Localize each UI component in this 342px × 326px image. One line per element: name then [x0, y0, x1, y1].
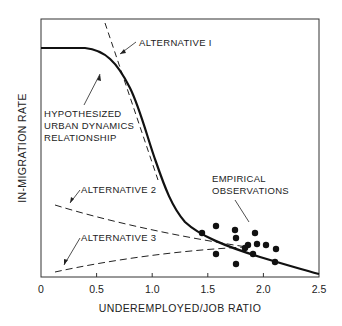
empirical-label-line1: EMPIRICAL: [212, 173, 266, 184]
chart: 0 0.5 1.0 1.5 2.0 2.5 UNDEREMPLOYED/JOB …: [0, 0, 342, 326]
x-axis-title: UNDEREMPLOYED/JOB RATIO: [99, 302, 261, 314]
alternative-3-label: ALTERNATIVE 3: [81, 232, 156, 243]
empirical-points: [199, 223, 279, 267]
y-axis-title: IN-MIGRATION RATE: [16, 93, 28, 203]
x-tick-label: 1.0: [145, 283, 160, 295]
x-tick-label: 1.5: [200, 283, 215, 295]
empirical-label-line2: OBSERVATIONS: [212, 185, 289, 196]
hypothesized-label-line1: HYPOTHESIZED: [44, 108, 122, 119]
x-tick-label: 2.0: [256, 283, 271, 295]
x-tick-marks: [97, 273, 264, 277]
x-tick-label: 0: [38, 283, 44, 295]
hypothesized-label-line3: RELATIONSHIP: [44, 132, 117, 143]
x-tick-label: 2.5: [312, 283, 327, 295]
hypothesized-label-line2: URBAN DYNAMICS: [44, 120, 134, 131]
x-tick-label: 0.5: [89, 283, 104, 295]
alternative-2-label: ALTERNATIVE 2: [81, 184, 156, 195]
alternative-1-label: ALTERNATIVE I: [139, 37, 212, 48]
alternative-3-line: [55, 247, 247, 272]
